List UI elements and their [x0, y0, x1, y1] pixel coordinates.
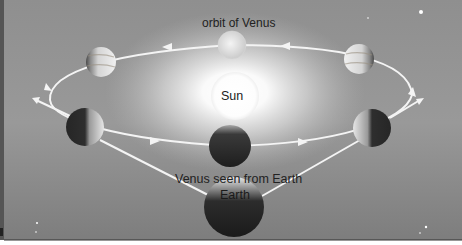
earth-label: Earth	[220, 188, 250, 202]
orbit-label: orbit of Venus	[202, 16, 275, 30]
venus-gibbous-left	[86, 47, 116, 77]
venus-half-right	[353, 109, 391, 147]
venus-half-left	[66, 108, 104, 146]
venus-new	[209, 125, 251, 167]
venus-seen-from-earth-label: Venus seen from Earth	[175, 172, 302, 186]
earth	[204, 177, 264, 237]
sun-label: Sun	[221, 89, 243, 103]
venus-full	[218, 31, 246, 59]
venus-gibbous-right	[344, 44, 374, 74]
venus-phases-diagram	[0, 0, 462, 245]
left-border	[0, 0, 4, 240]
bottom-border	[0, 240, 462, 245]
